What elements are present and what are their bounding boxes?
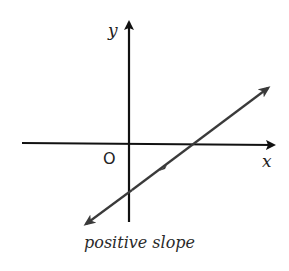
diagram-caption: positive slope — [84, 233, 195, 252]
origin-label: O — [103, 149, 116, 168]
x-axis-label: x — [262, 151, 272, 171]
x-axis — [22, 143, 274, 145]
y-axis-label: y — [107, 20, 118, 40]
coordinate-plane: y x O positive slope — [0, 0, 289, 271]
